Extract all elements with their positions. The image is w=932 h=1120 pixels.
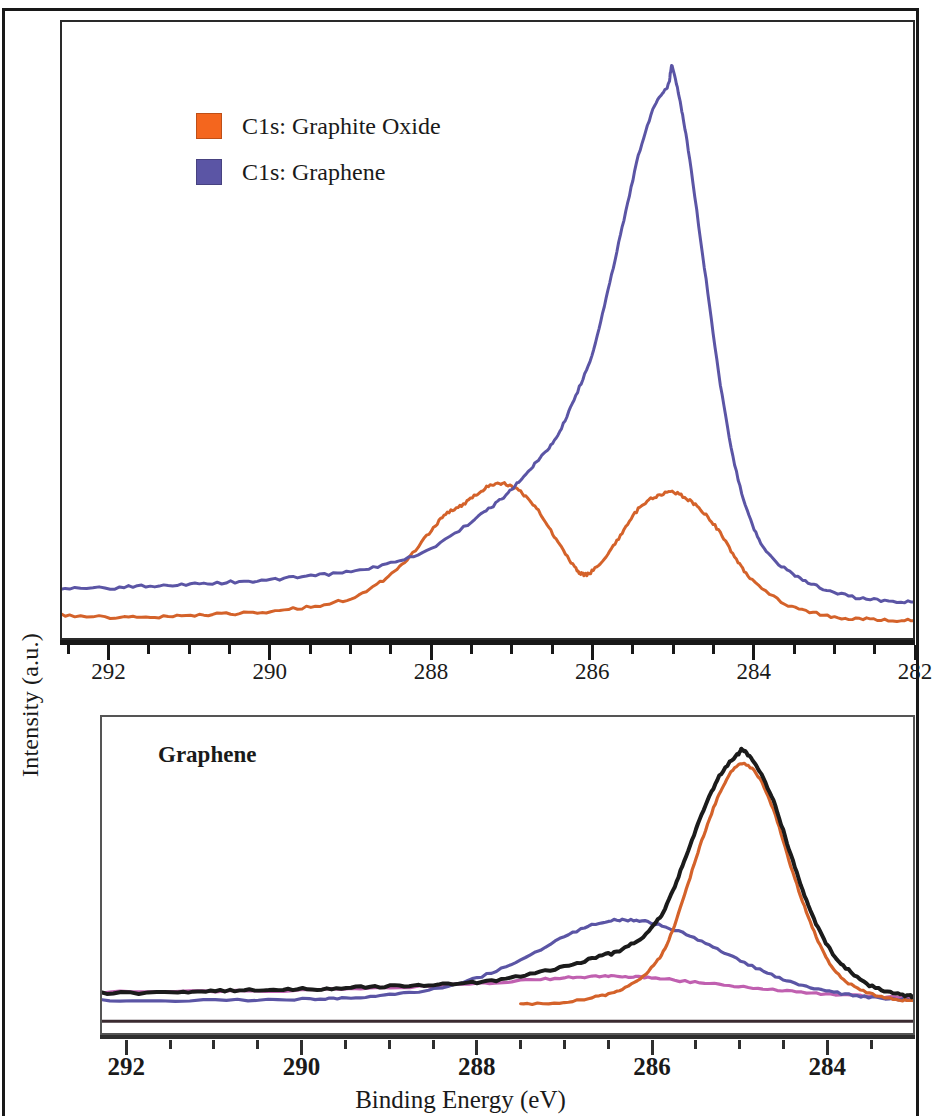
legend: C1s: Graphite Oxide C1s: Graphene: [196, 108, 441, 200]
axis-tick-label: 286: [575, 659, 610, 685]
legend-label-graphite-oxide: C1s: Graphite Oxide: [242, 113, 441, 140]
axis-tick-minor: [67, 645, 70, 654]
bottom-curve-envelope: [102, 749, 913, 998]
axis-tick-minor: [228, 645, 231, 654]
axis-tick-major: [591, 645, 594, 660]
axis-tick-major: [430, 645, 433, 660]
legend-item-graphene: C1s: Graphene: [196, 154, 441, 190]
top-curve-graphene: [62, 65, 913, 602]
legend-label-graphene: C1s: Graphene: [242, 159, 385, 186]
axis-tick-minor: [389, 645, 392, 654]
axis-tick-minor: [212, 1040, 215, 1049]
axis-tick-label: 288: [458, 1053, 496, 1081]
axis-tick-major: [107, 645, 110, 660]
axis-tick-minor: [344, 1040, 347, 1049]
axis-tick-label: 292: [108, 1053, 146, 1081]
legend-swatch-graphene: [196, 159, 222, 185]
axis-tick-label: 288: [414, 659, 449, 685]
axis-tick-label: 284: [736, 659, 771, 685]
axis-tick-minor: [694, 1040, 697, 1049]
axis-tick-minor: [309, 645, 312, 654]
axis-tick-label: 282: [898, 659, 932, 685]
axis-tick-minor: [188, 645, 191, 654]
axis-tick-minor: [782, 1040, 785, 1049]
axis-tick-minor: [470, 645, 473, 654]
top-plot-panel: [60, 20, 915, 640]
axis-tick-label: 286: [633, 1053, 671, 1081]
axis-tick-minor: [738, 1040, 741, 1049]
axis-tick-major: [914, 645, 917, 660]
y-axis-title: Intensity (a.u.): [17, 585, 47, 825]
axis-tick-minor: [672, 645, 675, 654]
axis-tick-minor: [256, 1040, 259, 1049]
axis-tick-minor: [563, 1040, 566, 1049]
axis-tick-minor: [631, 645, 634, 654]
axis-tick-minor: [793, 645, 796, 654]
bottom-axis-line: [100, 1035, 915, 1039]
axis-tick-label: 290: [252, 659, 287, 685]
axis-tick-minor: [147, 645, 150, 654]
axis-tick-minor: [833, 645, 836, 654]
bottom-panel-x-axis: 292290288286284: [100, 1035, 915, 1085]
axis-tick-major: [752, 645, 755, 660]
axis-tick-minor: [873, 645, 876, 654]
axis-tick-minor: [169, 1040, 172, 1049]
top-panel-x-axis: 292290288286284282: [60, 640, 915, 686]
axis-tick-minor: [388, 1040, 391, 1049]
axis-tick-minor: [510, 645, 513, 654]
axis-tick-label: 290: [283, 1053, 321, 1081]
axis-tick-minor: [432, 1040, 435, 1049]
x-axis-title: Binding Energy (eV): [0, 1086, 921, 1114]
bottom-curve-sp2-component: [521, 763, 913, 1004]
axis-tick-minor: [870, 1040, 873, 1049]
legend-item-graphite-oxide: C1s: Graphite Oxide: [196, 108, 441, 144]
axis-tick-minor: [607, 1040, 610, 1049]
figure-border-right: [916, 8, 919, 1116]
bottom-panel-annotation: Graphene: [158, 742, 256, 768]
axis-tick-minor: [712, 645, 715, 654]
top-curve-graphite-oxide: [62, 483, 913, 622]
axis-tick-label: 292: [91, 659, 126, 685]
axis-tick-major: [268, 645, 271, 660]
axis-tick-minor: [551, 645, 554, 654]
legend-swatch-graphite-oxide: [196, 113, 222, 139]
axis-tick-minor: [349, 645, 352, 654]
top-panel-plot-area: [62, 22, 913, 638]
axis-tick-minor: [519, 1040, 522, 1049]
axis-tick-label: 284: [809, 1053, 847, 1081]
